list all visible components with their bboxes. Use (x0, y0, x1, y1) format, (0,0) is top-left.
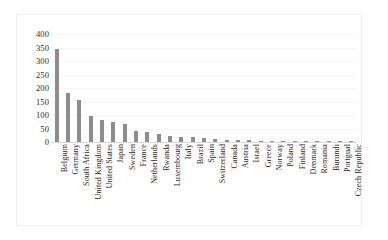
x-label-slot: Burundi (323, 144, 334, 224)
bar-slot (346, 34, 357, 142)
x-label-slot: Austria (232, 144, 243, 224)
x-label-slot: Denmark (300, 144, 311, 224)
x-label-slot: Japan (108, 144, 119, 224)
bar (100, 120, 104, 142)
bar-slot (334, 34, 345, 142)
x-label-slot: Switzerland (210, 144, 221, 224)
x-label-slot: United States (96, 144, 107, 224)
bar-slot (130, 34, 141, 142)
bar-slot (153, 34, 164, 142)
y-axis: 400350300250200150100500 (23, 34, 49, 142)
bar-slot (108, 34, 119, 142)
bar-slot (266, 34, 277, 142)
bar-slot (74, 34, 85, 142)
bar-slot (221, 34, 232, 142)
x-label-slot: Germany (62, 144, 73, 224)
x-label-slot: Poland (278, 144, 289, 224)
bar-slot (62, 34, 73, 142)
bar-slot (142, 34, 153, 142)
x-label-slot: Brazil (187, 144, 198, 224)
x-axis-tick-label: Czech Republic (355, 144, 363, 196)
x-label-slot: United Kingdom (85, 144, 96, 224)
y-axis-tick-label: 150 (23, 98, 49, 107)
x-axis-line (51, 142, 357, 143)
x-axis-labels: BelgiumGermanySouth AfricaUnited Kingdom… (51, 144, 357, 224)
x-label-slot: Romania (312, 144, 323, 224)
chart-container: 400350300250200150100500 BelgiumGermanyS… (16, 14, 362, 226)
y-axis-tick-label: 200 (23, 84, 49, 93)
x-label-slot: Norway (266, 144, 277, 224)
y-axis-tick-label: 50 (23, 125, 49, 134)
bar-slot (232, 34, 243, 142)
x-label-slot: Greece (255, 144, 266, 224)
bar-slot (198, 34, 209, 142)
bar-slot (85, 34, 96, 142)
x-label-slot: Sweden (119, 144, 130, 224)
bar-slot (119, 34, 130, 142)
bar-slot (176, 34, 187, 142)
plot-area (51, 34, 357, 142)
x-label-slot: France (130, 144, 141, 224)
bar-slot (255, 34, 266, 142)
x-label-slot: Italy (176, 144, 187, 224)
bar (77, 100, 81, 142)
x-label-slot: Portgual (334, 144, 345, 224)
bar (157, 134, 161, 142)
bar (89, 116, 93, 142)
x-label-slot: Czech Republic (346, 144, 357, 224)
x-label-slot: Israel (244, 144, 255, 224)
y-axis-tick-label: 400 (23, 30, 49, 39)
bar (111, 122, 115, 142)
y-axis-tick-label: 100 (23, 111, 49, 120)
x-label-slot: Rwanda (153, 144, 164, 224)
bar-slot (323, 34, 334, 142)
y-axis-tick-label: 350 (23, 44, 49, 53)
bar (55, 49, 59, 142)
y-axis-tick-label: 0 (23, 138, 49, 147)
x-label-slot: Finland (289, 144, 300, 224)
bar-slot (187, 34, 198, 142)
plot-wrapper: 400350300250200150100500 BelgiumGermanyS… (17, 15, 361, 225)
bar-series (51, 34, 357, 142)
x-label-slot: Belgium (51, 144, 62, 224)
x-label-slot: Spain (198, 144, 209, 224)
bar-slot (96, 34, 107, 142)
x-label-slot: Canada (221, 144, 232, 224)
y-axis-tick-label: 250 (23, 71, 49, 80)
bar (66, 93, 70, 142)
x-label-slot: South Africa (74, 144, 85, 224)
bar-slot (312, 34, 323, 142)
bar (123, 124, 127, 142)
bar-slot (164, 34, 175, 142)
bar (145, 132, 149, 142)
bar-slot (210, 34, 221, 142)
bar-slot (51, 34, 62, 142)
bar-slot (278, 34, 289, 142)
bar-slot (300, 34, 311, 142)
bar (134, 131, 138, 142)
bar-slot (244, 34, 255, 142)
bar-slot (289, 34, 300, 142)
x-label-slot: Luxembourg (164, 144, 175, 224)
y-axis-tick-label: 300 (23, 57, 49, 66)
x-label-slot: Netherlands (142, 144, 153, 224)
